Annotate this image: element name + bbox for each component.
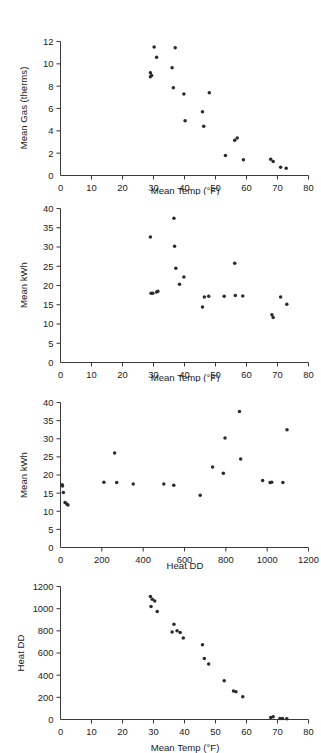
chart-panel-mean-gas-vs-mean-temp: 024681012 01020304050607080 Mean Gas (th…: [0, 0, 321, 195]
y-tick-label: 25: [43, 261, 53, 272]
y-tick-label: 10: [43, 318, 53, 329]
data-point: [174, 266, 178, 270]
data-point: [201, 643, 205, 647]
chart-4-x-axis-title: Mean Temp (°F): [151, 742, 220, 753]
data-point: [285, 717, 289, 721]
data-point: [149, 235, 153, 239]
y-tick-label: 30: [43, 433, 53, 444]
data-point: [222, 471, 226, 475]
x-tick-label: 1000: [257, 554, 278, 565]
y-tick-label: 15: [43, 299, 53, 310]
x-tick-label: 60: [241, 369, 251, 380]
data-point: [279, 295, 283, 299]
y-tick-label: 10: [43, 506, 53, 517]
data-point: [113, 451, 117, 455]
data-point: [151, 291, 155, 295]
data-point: [66, 503, 70, 507]
x-tick-label: 400: [135, 554, 151, 565]
data-point: [178, 283, 182, 287]
data-point: [62, 491, 66, 495]
data-point: [242, 158, 246, 162]
data-point: [149, 605, 153, 609]
chart-4-y-axis-title: Heat DD: [15, 635, 26, 672]
x-tick-label: 80: [303, 369, 313, 380]
x-tick-label: 10: [86, 726, 96, 737]
data-point: [234, 690, 238, 694]
data-point: [115, 481, 119, 485]
chart-1-y-tick-labels: 024681012: [43, 36, 53, 181]
chart-2-y-axis-title: Mean kWh: [18, 262, 29, 308]
data-point: [178, 631, 182, 635]
y-tick-label: 5: [48, 338, 53, 349]
data-point: [261, 479, 265, 483]
chart-4-axes: [61, 587, 309, 720]
x-tick-label: 40: [179, 726, 189, 737]
x-tick-label: 0: [58, 726, 63, 737]
x-tick-label: 1200: [298, 554, 319, 565]
data-point: [207, 662, 211, 666]
y-tick-label: 10: [43, 58, 53, 69]
data-point: [239, 457, 243, 461]
chart-1-y-axis-title: Mean Gas (therms): [18, 67, 29, 150]
x-tick-label: 70: [272, 726, 282, 737]
y-tick-label: 30: [43, 241, 53, 252]
data-point: [241, 695, 245, 699]
x-tick-label: 200: [94, 554, 110, 565]
x-tick-label: 0: [58, 369, 63, 380]
data-point: [270, 481, 274, 485]
y-tick-label: 600: [38, 647, 54, 658]
data-point: [173, 46, 177, 50]
y-tick-label: 35: [43, 415, 53, 426]
data-point: [202, 125, 206, 128]
data-point: [156, 290, 160, 294]
x-tick-label: 80: [303, 726, 313, 737]
data-point: [152, 45, 156, 49]
chart-4-y-tick-labels: 020040060080010001200: [33, 581, 54, 725]
data-point: [172, 483, 176, 487]
x-tick-label: 70: [272, 369, 282, 380]
data-point: [235, 136, 239, 140]
data-point: [182, 275, 186, 279]
chart-panel-mean-kwh-vs-mean-temp: 0510152025303540 01020304050607080 Mean …: [0, 190, 321, 382]
data-point: [284, 166, 288, 170]
data-point: [172, 216, 176, 220]
chart-2-points: [149, 216, 289, 319]
y-tick-label: 4: [48, 125, 53, 136]
data-point: [271, 316, 275, 320]
chart-3-svg: 0510152025303540 020040060080010001200 M…: [0, 380, 321, 571]
chart-panel-heat-dd-vs-mean-temp: 020040060080010001200 01020304050607080 …: [0, 568, 321, 753]
data-point: [172, 622, 176, 626]
chart-4-x-tick-labels: 01020304050607080: [58, 726, 314, 737]
data-point: [172, 86, 176, 90]
chart-1-svg: 024681012 01020304050607080 Mean Gas (th…: [0, 0, 321, 195]
data-point: [224, 154, 228, 158]
y-tick-label: 15: [43, 488, 53, 499]
chart-1-axes: [61, 42, 309, 176]
x-tick-label: 800: [218, 554, 234, 565]
y-tick-label: 12: [43, 36, 53, 47]
data-point: [170, 66, 174, 70]
y-tick-label: 0: [48, 357, 53, 368]
data-point: [271, 160, 275, 164]
data-point: [183, 119, 187, 123]
data-point: [198, 494, 202, 498]
data-point: [233, 261, 237, 265]
data-point: [153, 599, 157, 603]
data-point: [201, 110, 205, 114]
chart-3-y-ticks: [57, 403, 61, 530]
data-point: [279, 165, 283, 169]
data-point: [222, 295, 226, 299]
four-panel-scatter-figure: 024681012 01020304050607080 Mean Gas (th…: [0, 0, 321, 753]
chart-4-y-ticks: [57, 587, 61, 698]
data-point: [211, 465, 215, 469]
chart-2-y-ticks: [57, 209, 61, 344]
data-point: [201, 305, 205, 309]
x-tick-label: 10: [86, 369, 96, 380]
data-point: [207, 295, 211, 299]
y-tick-label: 2: [48, 148, 53, 159]
data-point: [271, 715, 275, 719]
chart-3-y-axis-title: Mean kWh: [18, 452, 29, 498]
data-point: [281, 717, 285, 721]
chart-3-axes: [61, 403, 309, 548]
chart-1-points: [149, 45, 288, 170]
